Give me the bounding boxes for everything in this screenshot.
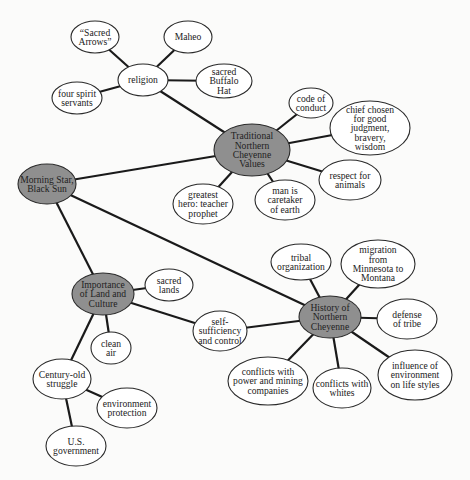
node-label-line: conduct bbox=[296, 102, 327, 113]
concept-map: Morning Star,Black SunTraditionalNorther… bbox=[0, 0, 470, 480]
node-sacred-arrows: “SacredArrows” bbox=[71, 21, 119, 53]
node-label-line: lands bbox=[159, 284, 180, 295]
node-caretaker: man iscaretakerof earth bbox=[255, 180, 315, 220]
node-tribal-org: tribalorganization bbox=[271, 244, 331, 280]
node-label-line: Culture bbox=[89, 298, 118, 309]
node-label-line: whites bbox=[329, 387, 354, 398]
node-chief-chosen: chief chosenfor goodjudgment,bravery,wis… bbox=[330, 101, 410, 155]
node-sacred-lands: sacredlands bbox=[145, 269, 193, 301]
node-self-sufficiency: self-sufficiencyand control bbox=[193, 311, 247, 351]
node-clean-air: cleanair bbox=[91, 332, 131, 364]
node-label-line: Maheo bbox=[175, 31, 202, 42]
node-conflicts-power: conflicts withpower and miningcompanies bbox=[228, 357, 308, 405]
node-us-government: U.S.government bbox=[46, 426, 106, 466]
node-label-line: of earth bbox=[270, 204, 300, 215]
node-label-line: prophet bbox=[188, 208, 218, 219]
node-label-line: protection bbox=[108, 407, 147, 418]
node-code-conduct: code ofconduct bbox=[289, 88, 333, 118]
node-label-line: companies bbox=[247, 385, 288, 396]
node-buffalo-hat: sacredBuffaloHat bbox=[196, 64, 252, 98]
node-label-line: organization bbox=[277, 261, 325, 272]
node-traditional-values: TraditionalNorthernCheyenneValues bbox=[214, 124, 290, 176]
node-label-line: on life styles bbox=[390, 379, 439, 390]
node-label-line: Black Sun bbox=[27, 183, 67, 194]
node-label-line: government bbox=[53, 445, 99, 456]
node-influence-env: influence ofenvironmenton life styles bbox=[378, 350, 452, 400]
node-spirit-servants: four spiritservants bbox=[52, 82, 102, 114]
node-label-line: Values bbox=[239, 158, 265, 169]
node-label-line: religion bbox=[128, 74, 158, 85]
node-defense: defenseof tribe bbox=[377, 299, 437, 339]
node-maheo: Maheo bbox=[164, 21, 212, 53]
node-label-line: servants bbox=[61, 97, 93, 108]
node-env-protection: environmentprotection bbox=[97, 388, 157, 428]
node-label-line: wisdom bbox=[355, 141, 386, 152]
node-label-line: animals bbox=[335, 179, 365, 190]
node-label-line: air bbox=[106, 347, 117, 358]
concept-nodes: Morning Star,Black SunTraditionalNorther… bbox=[18, 21, 452, 466]
node-label-line: and control bbox=[198, 335, 242, 346]
node-label-line: Arrows” bbox=[78, 36, 111, 47]
node-label-line: Cheyenne bbox=[311, 321, 349, 332]
node-migration: migrationfromMinnesota toMontana bbox=[341, 240, 415, 288]
node-conflicts-whites: conflicts withwhites bbox=[313, 368, 371, 408]
node-label-line: Montana bbox=[361, 272, 396, 283]
node-label-line: struggle bbox=[47, 378, 78, 389]
node-morning-star: Morning Star,Black Sun bbox=[18, 164, 76, 204]
node-religion: religion bbox=[118, 64, 168, 96]
node-history: History ofNorthernCheyenne bbox=[299, 296, 361, 338]
node-century-struggle: Century-oldstruggle bbox=[33, 359, 91, 399]
node-respect-animals: respect foranimals bbox=[319, 160, 381, 200]
node-importance-land: Importanceof Land andCulture bbox=[72, 273, 134, 315]
node-label-line: of tribe bbox=[393, 318, 421, 329]
node-label-line: Hat bbox=[217, 85, 231, 96]
node-greatest-hero: greatesthero: teacherprophet bbox=[173, 184, 233, 224]
